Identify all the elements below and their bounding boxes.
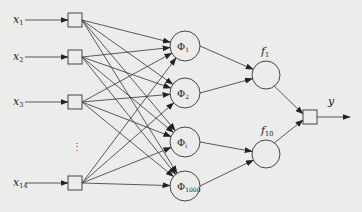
input-to-hidden-edge [82,94,170,102]
hidden-to-second-edge [200,160,253,186]
second-layer-label: f1 [260,45,269,59]
input-label: x2 [13,50,23,64]
input-to-hidden-edge [82,48,170,57]
second-layer-label: f10 [260,124,273,138]
input-label: x3 [13,95,23,109]
input-to-hidden-edge [82,57,176,174]
hidden-node-label: Φ2 [177,88,189,100]
input-to-hidden-edge [82,183,170,186]
input-node [68,176,82,190]
hidden-node-label: Φ1000 [177,181,201,193]
input-label: x14 [13,176,28,190]
hidden-node-label: Φ1 [177,41,189,53]
hidden-to-second-edge [200,79,252,93]
input-to-hidden-edge [82,20,170,42]
second-layer-node [252,140,280,168]
input-label: x1 [13,13,23,27]
input-node [68,95,82,109]
hidden-to-second-edge [200,142,252,151]
connection-edges [25,20,350,186]
hidden-node-label: Φi [177,137,187,149]
output-node [303,110,317,124]
second-layer-node [252,61,280,89]
input-node [68,50,82,64]
second-to-output-edge [274,120,303,143]
input-to-hidden-edge [82,53,172,102]
input-to-hidden-edge [82,57,171,88]
hidden-to-second-edge [200,46,253,69]
output-label: y [327,95,335,108]
input-node [68,13,82,27]
neural-network-diagram: x1x2x3x14⋮Φ1Φ2ΦiΦ1000f1f10y [0,0,362,212]
nodes [68,13,317,201]
second-to-output-edge [274,86,303,114]
ellipsis: ⋮ [72,141,82,152]
